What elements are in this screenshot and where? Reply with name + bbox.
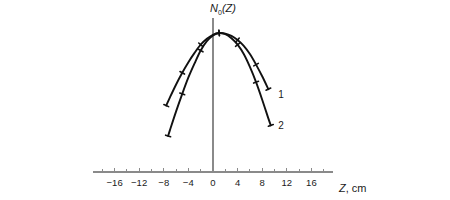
y-axis-title-argument: (Z) [222,2,236,14]
x-axis-tick-label: −12 [131,177,147,188]
x-axis-tick-label: −4 [183,177,194,188]
y-axis-title: N0(Z) [210,2,236,16]
x-axis-tick-label: 4 [235,177,240,188]
data-point-marker [164,104,169,106]
x-axis-tick-label: 8 [259,177,264,188]
x-axis-title: Z, cm [339,182,367,194]
curve-label-2: 2 [278,120,284,131]
x-axis-tick-label: 0 [210,177,215,188]
data-point-marker [268,125,273,127]
chart-figure [0,0,450,200]
data-point-marker [254,63,259,66]
data-point-marker [219,30,220,35]
curve-2 [168,33,271,136]
data-point-marker [180,93,185,95]
axes-layer [93,18,333,173]
data-point-marker [198,49,203,52]
data-point-marker [166,135,171,137]
x-axis-tick-label: 12 [281,177,292,188]
x-axis-tick-label: 16 [306,177,317,188]
x-axis-title-unit: , cm [346,182,367,194]
data-point-marker [266,88,271,90]
x-axis-tick-label: −16 [106,177,122,188]
x-axis-tick-label: −8 [158,177,169,188]
curve-label-1: 1 [278,89,284,100]
data-point-marker [180,72,185,75]
data-point-marker [254,81,259,83]
x-axis-title-symbol: Z [339,182,346,194]
y-axis-title-base: N [210,2,218,14]
curves-layer [166,33,271,136]
